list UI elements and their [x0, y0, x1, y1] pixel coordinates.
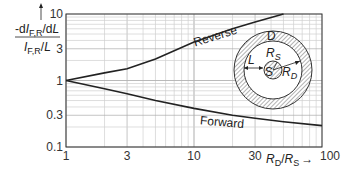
inset-L-label: L: [248, 53, 255, 67]
svg-text:1: 1: [63, 149, 70, 163]
inset-diagram: D RS S L RD: [234, 29, 312, 109]
svg-text:10: 10: [187, 149, 201, 163]
svg-text:IF,R/L: IF,R/L: [24, 40, 51, 56]
svg-text:100: 100: [320, 149, 340, 163]
svg-text:1: 1: [56, 74, 63, 88]
x-axis-label: RD/RS→: [266, 152, 313, 168]
reverse-label: Reverse: [192, 23, 239, 50]
chart: 131030100 0.10.31310 Reverse Forward D R…: [0, 0, 346, 172]
svg-text:30: 30: [248, 149, 262, 163]
inset-D-label: D: [267, 29, 276, 43]
svg-text:3: 3: [124, 149, 131, 163]
svg-text:0.3: 0.3: [46, 108, 63, 122]
forward-label: Forward: [199, 113, 244, 131]
svg-text:0.1: 0.1: [46, 140, 63, 154]
inset-S-label: S: [265, 65, 273, 79]
svg-text:-dIF,R/dL: -dIF,R/dL: [15, 22, 59, 38]
svg-text:3: 3: [56, 42, 63, 56]
svg-text:10: 10: [50, 7, 64, 21]
